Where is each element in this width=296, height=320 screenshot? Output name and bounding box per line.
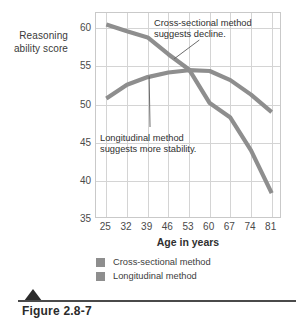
annotation-leader-line-cross-sectional <box>174 40 199 59</box>
legend-swatch-icon <box>96 272 105 281</box>
annotation-longitudinal: Longitudinal method suggests more stabil… <box>100 133 220 155</box>
series-line-longitudinal <box>106 70 271 112</box>
legend-item: Cross-sectional method <box>96 255 276 269</box>
x-axis-title: Age in years <box>95 236 281 248</box>
y-axis-tick-label: 40 <box>67 174 91 185</box>
annotation-leader-line-longitudinal <box>149 76 150 127</box>
y-axis-tick-label: 50 <box>67 98 91 109</box>
figure-container: Reasoning ability score 605550454035 253… <box>0 0 296 320</box>
y-axis-tick-label: 35 <box>67 213 91 224</box>
y-axis-tick-labels: 605550454035 <box>63 12 91 218</box>
y-axis-title: Reasoning ability score <box>6 30 68 55</box>
legend-item-label: Longitudinal method <box>113 271 197 281</box>
x-axis-tick-label: 81 <box>259 221 283 232</box>
legend-item: Longitudinal method <box>96 269 276 283</box>
y-axis-tick-label: 60 <box>67 22 91 33</box>
x-axis-tick-labels: 253239465360677481 <box>95 221 281 235</box>
chart-legend: Cross-sectional methodLongitudinal metho… <box>96 255 276 283</box>
legend-item-label: Cross-sectional method <box>113 257 211 267</box>
series-line-cross-sectional <box>106 24 271 193</box>
legend-swatch-icon <box>96 258 105 267</box>
y-axis-tick-label: 55 <box>67 60 91 71</box>
plot-area <box>95 12 281 218</box>
series-layer <box>96 13 281 218</box>
annotation-cross-sectional: Cross-sectional method suggests decline. <box>154 18 286 40</box>
caption-divider <box>18 300 296 302</box>
figure-caption: Figure 2.8-7 <box>22 304 92 318</box>
y-axis-tick-label: 45 <box>67 136 91 147</box>
